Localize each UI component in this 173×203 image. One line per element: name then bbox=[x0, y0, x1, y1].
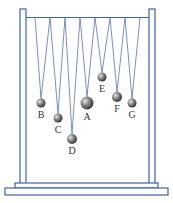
string-d bbox=[65, 18, 72, 135]
ball-a bbox=[81, 97, 94, 110]
balls: BCDAEFG bbox=[37, 73, 137, 157]
label-d: D bbox=[68, 145, 75, 156]
label-f: F bbox=[114, 103, 120, 114]
string-g bbox=[132, 18, 140, 99]
ball-f bbox=[112, 92, 122, 102]
string-a bbox=[87, 18, 95, 97]
ball-g bbox=[128, 99, 137, 108]
string-c bbox=[58, 18, 65, 114]
label-b: B bbox=[38, 109, 45, 120]
string-a bbox=[80, 18, 87, 97]
string-e bbox=[95, 18, 102, 73]
label-g: G bbox=[128, 109, 135, 120]
ball-b bbox=[37, 99, 46, 108]
string-f bbox=[110, 18, 117, 93]
string-e bbox=[102, 18, 110, 73]
label-c: C bbox=[55, 124, 62, 135]
string-b bbox=[35, 18, 41, 99]
string-g bbox=[125, 18, 132, 99]
base-upper bbox=[15, 183, 158, 188]
string-b bbox=[41, 18, 50, 99]
label-e: E bbox=[99, 83, 105, 94]
ball-c bbox=[54, 114, 63, 123]
label-a: A bbox=[83, 111, 91, 122]
pendulum-apparatus-diagram: BCDAEFG bbox=[0, 0, 173, 203]
right-post bbox=[149, 9, 155, 185]
string-c bbox=[50, 18, 58, 114]
left-post bbox=[20, 9, 26, 185]
string-f bbox=[117, 18, 125, 93]
ball-d bbox=[67, 134, 77, 144]
string-d bbox=[72, 18, 80, 135]
base-lower bbox=[5, 188, 168, 195]
ball-e bbox=[98, 73, 107, 82]
